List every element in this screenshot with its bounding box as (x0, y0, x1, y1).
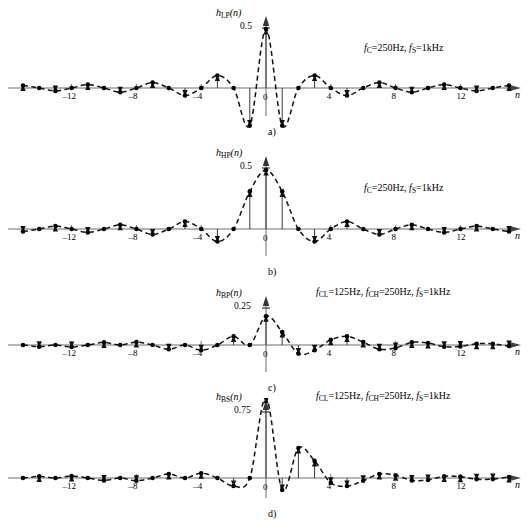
panel-caption: c) (268, 382, 276, 393)
x-tick-label: 0 (263, 482, 268, 492)
sample-point (296, 86, 301, 91)
sample-point (118, 343, 123, 348)
x-tick-label: –4 (193, 348, 202, 358)
sample-point (296, 446, 301, 451)
x-tick-label: 8 (392, 481, 397, 491)
x-tick-label: 0 (263, 233, 268, 243)
sample-point (150, 232, 155, 237)
sample-point (167, 347, 172, 352)
sample-point (231, 484, 236, 489)
sample-point (167, 86, 172, 91)
y-axis-arrow (263, 156, 269, 166)
sample-point (491, 86, 496, 91)
peak-value-label: 0.5 (240, 21, 252, 31)
sample-point (491, 342, 496, 347)
sample-point (183, 343, 188, 348)
sample-point (361, 478, 366, 483)
sample-point (474, 224, 479, 229)
sample-point (264, 168, 269, 173)
x-tick-label: 12 (456, 232, 465, 242)
panel-annotation: fC=250Hz, fS=1kHz (364, 182, 443, 195)
x-axis-name: n (515, 230, 520, 241)
sample-point (167, 472, 172, 477)
panel-caption: a) (268, 126, 276, 137)
sample-point (183, 476, 188, 481)
sample-point (474, 477, 479, 482)
sample-point (231, 334, 236, 339)
sample-point (312, 348, 317, 353)
sample-point (21, 83, 26, 88)
sample-point (21, 229, 26, 234)
x-tick-label: –4 (193, 481, 202, 491)
peak-value-label: 0.5 (240, 161, 252, 171)
x-tick-label: 12 (456, 91, 465, 101)
sample-point (426, 86, 431, 91)
panel-annotation: fCL=125Hz, fCH=250Hz, fS=1kHz (316, 286, 450, 299)
sample-point (264, 314, 269, 319)
sample-point (118, 90, 123, 95)
sample-point (296, 227, 301, 232)
sample-point (329, 86, 334, 91)
sample-point (312, 73, 317, 78)
sample-point (102, 86, 107, 91)
x-axis-name: n (515, 89, 520, 100)
sample-point (231, 86, 236, 91)
panel-c: hBP(n)0.25–12–8–404812nfCL=125Hz, fCH=25… (0, 280, 531, 398)
sample-point (150, 476, 155, 481)
sample-point (69, 474, 74, 479)
peak-value-label: 0.75 (234, 405, 251, 415)
x-tick-label: –4 (193, 232, 202, 242)
sample-point (312, 239, 317, 244)
sample-point (280, 189, 285, 194)
sample-point (393, 86, 398, 91)
sample-point (474, 89, 479, 94)
x-tick-label: 8 (392, 232, 397, 242)
sample-point (458, 227, 463, 232)
x-tick-label: 8 (392, 348, 397, 358)
sample-point (183, 219, 188, 224)
sample-point (264, 27, 269, 32)
sample-point (442, 230, 447, 235)
y-axis-label: hLP(n) (216, 7, 241, 20)
sample-point (86, 82, 91, 87)
sample-point (377, 80, 382, 85)
peak-value-label: 0.25 (234, 301, 251, 311)
sample-point (102, 478, 107, 483)
sample-point (118, 223, 123, 228)
sample-point (410, 340, 415, 345)
sample-point (248, 189, 253, 194)
sample-point (215, 476, 220, 481)
sample-point (507, 344, 512, 349)
x-axis-name: n (515, 479, 520, 490)
sample-point (53, 224, 58, 229)
sample-point (410, 478, 415, 483)
sample-point (69, 227, 74, 232)
x-tick-label: 0 (263, 92, 268, 102)
panel-b: hHP(n)0.5–12–8–404812nfC=250Hz, fS=1kHzb… (0, 140, 531, 280)
sample-point (345, 484, 350, 489)
sample-point (102, 340, 107, 345)
y-axis-label: hHP(n) (216, 147, 242, 160)
sample-point (215, 239, 220, 244)
sample-point (150, 80, 155, 85)
sample-point (53, 476, 58, 481)
sample-point (507, 83, 512, 88)
x-tick-label: –12 (63, 348, 77, 358)
x-tick-label: –12 (63, 91, 77, 101)
sample-point (442, 82, 447, 87)
sample-point (280, 123, 285, 128)
sample-point (134, 340, 139, 345)
sample-point (134, 227, 139, 232)
x-tick-label: –8 (128, 91, 137, 101)
x-tick-label: 0 (263, 349, 268, 359)
y-axis-arrow (263, 296, 269, 306)
sample-point (393, 227, 398, 232)
x-tick-label: 4 (327, 232, 332, 242)
sample-point (37, 474, 42, 479)
sample-point (410, 223, 415, 228)
sample-point (442, 344, 447, 349)
sample-point (248, 343, 253, 348)
sample-point (377, 347, 382, 352)
sample-point (361, 86, 366, 91)
sample-point (329, 338, 334, 343)
